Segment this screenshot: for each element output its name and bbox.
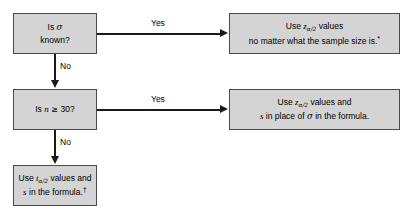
node-n-ge-30-value: 30? <box>61 104 75 114</box>
edge-sigma-known-no-arrowhead <box>51 80 59 88</box>
alpha-over-2-subscript: α/2 <box>299 102 309 108</box>
sigma-symbol: σ <box>57 22 63 32</box>
asterisk-footnote-marker: * <box>377 34 380 43</box>
node-use-t-line-1: Use tα/2 values and <box>19 172 92 185</box>
edge-n-ge-30-no-arrowhead <box>51 156 59 164</box>
alpha-over-2-text: α/2 <box>307 26 317 32</box>
edge-label-sigma-known-yes: Yes <box>151 18 165 28</box>
edge-sigma-known-yes-line <box>97 33 221 35</box>
node-use-z-any-size: Use zα/2 values no matter what the sampl… <box>229 13 400 54</box>
node-sigma-known-line-1: Is σ <box>48 21 63 34</box>
node-sigma-known-prefix: Is <box>48 22 57 32</box>
edge-n-ge-30-yes-line <box>97 109 221 111</box>
in-the-formula-text: in the formula. <box>27 187 83 197</box>
node-n-ge-30-prefix: Is <box>35 104 44 114</box>
edge-n-ge-30-yes-arrowhead <box>220 105 228 113</box>
use-t-suffix: values and <box>48 173 91 183</box>
use-z-suffix: values <box>316 21 343 31</box>
edge-sigma-known-no-line <box>54 54 56 81</box>
node-n-ge-30-line-1: Is n ≥ 30? <box>35 103 75 116</box>
node-use-t: Use tα/2 values and s in the formula.† <box>13 165 97 206</box>
node-use-z-with-s-line-1: Use zα/2 values and <box>278 96 352 109</box>
alpha-over-2-text: α/2 <box>299 102 309 108</box>
alpha-over-2-subscript: α/2 <box>307 26 317 32</box>
use-z-prefix: Use <box>286 21 303 31</box>
flowchart-diagram: Is σ known? Is n ≥ 30? Use zα/2 values n… <box>0 0 410 215</box>
use-t-prefix: Use <box>19 173 36 183</box>
use-z-with-s-prefix: Use <box>278 97 295 107</box>
sample-size-text: no matter what the sample size is. <box>249 35 378 45</box>
alpha-over-2-subscript: α/2 <box>39 178 49 184</box>
edge-label-n-ge-30-yes: Yes <box>151 94 165 104</box>
alpha-over-2-text: α/2 <box>39 178 49 184</box>
node-use-z-with-s: Use zα/2 values and s in place of σ in t… <box>229 89 400 130</box>
node-use-t-line-2: s in the formula.† <box>23 185 87 199</box>
node-sigma-known: Is σ known? <box>13 13 97 54</box>
in-place-of-text: in place of <box>263 111 306 121</box>
node-n-ge-30: Is n ≥ 30? <box>13 89 97 130</box>
edge-sigma-known-yes-arrowhead <box>220 29 228 37</box>
node-use-z-any-size-line-1: Use zα/2 values <box>286 20 343 33</box>
in-the-formula-text: in the formula. <box>313 111 369 121</box>
edge-n-ge-30-no-line <box>54 130 56 157</box>
edge-label-n-ge-30-no: No <box>60 137 71 147</box>
edge-label-sigma-known-no: No <box>60 61 71 71</box>
node-use-z-any-size-line-2: no matter what the sample size is.* <box>249 34 380 47</box>
dagger-footnote-marker: † <box>83 185 87 194</box>
node-use-z-with-s-line-2: s in place of σ in the formula. <box>260 110 369 123</box>
node-sigma-known-line-2: known? <box>40 34 69 46</box>
use-z-with-s-suffix: values and <box>308 97 351 107</box>
